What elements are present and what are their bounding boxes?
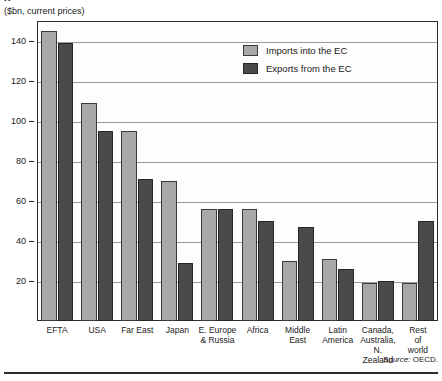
legend-label-imports: Imports into the EC	[266, 45, 347, 56]
x-axis: EFTAUSAFar EastJapanE. Europe & RussiaAf…	[37, 325, 438, 365]
source-prefix: Source:	[383, 355, 411, 364]
x-tick-label: Japan	[157, 325, 197, 335]
y-tick-label-100: 100	[11, 116, 26, 126]
y-tick-mark-100	[29, 121, 34, 122]
legend-label-exports: Exports from the EC	[266, 63, 352, 74]
unit-caption: ($bn, current prices)	[4, 6, 85, 16]
x-tick-label: Rest of world	[398, 325, 438, 355]
gridline-100	[38, 122, 437, 123]
y-tick-mark-140	[29, 41, 34, 42]
y-tick-mark-120	[29, 81, 34, 82]
y-tick-mark-20	[29, 281, 34, 282]
gridline-20	[38, 282, 437, 283]
gridline-80	[38, 162, 437, 163]
x-tick-label: Middle East	[278, 325, 318, 345]
x-tick-label: EFTA	[37, 325, 77, 335]
legend-swatch-imports-icon	[243, 45, 258, 56]
y-tick-label-40: 40	[16, 236, 26, 246]
legend-swatch-exports-icon	[243, 63, 258, 74]
x-tick-label: Far East	[117, 325, 157, 335]
legend-item-exports: Exports from the EC	[243, 61, 403, 76]
y-tick-label-120: 120	[11, 76, 26, 86]
chart-legend: Imports into the EC Exports from the EC	[243, 43, 403, 79]
legend-item-imports: Imports into the EC	[243, 43, 403, 58]
bottom-divider	[4, 372, 438, 374]
gridline-40	[38, 242, 437, 243]
y-tick-mark-80	[29, 161, 34, 162]
y-axis: 20406080100120140	[0, 21, 34, 321]
y-tick-label-60: 60	[16, 196, 26, 206]
y-tick-mark-60	[29, 201, 34, 202]
gridline-120	[38, 82, 437, 83]
y-tick-mark-40	[29, 241, 34, 242]
y-tick-label-20: 20	[16, 276, 26, 286]
clipped-heading: g	[4, 0, 11, 1]
source-note: Source: OECD.	[383, 355, 438, 364]
x-tick-label: E. Europe & Russia	[197, 325, 237, 345]
x-tick-label: Latin America	[318, 325, 358, 345]
gridline-60	[38, 202, 437, 203]
x-tick-label: Africa	[238, 325, 278, 335]
source-value: OECD.	[413, 355, 438, 364]
x-tick-label: USA	[77, 325, 117, 335]
y-tick-label-80: 80	[16, 156, 26, 166]
y-tick-label-140: 140	[11, 36, 26, 46]
